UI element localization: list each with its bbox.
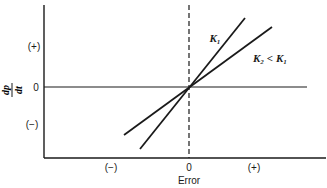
x-tick-positive: (+) <box>248 162 261 173</box>
y-tick-negative: (−) <box>26 119 39 130</box>
y-axis-label: dp dt <box>1 83 24 97</box>
y-tick-positive: (+) <box>28 41 41 52</box>
x-axis-label: Error <box>178 175 200 186</box>
y-axis-label-denominator: dt <box>14 86 24 94</box>
y-axis-label-numerator: dp <box>1 85 11 95</box>
y-tick-zero: 0 <box>33 82 39 93</box>
x-tick-zero: 0 <box>186 162 192 173</box>
x-tick-negative: (−) <box>105 162 118 173</box>
k2-label: K₂ < K₁ <box>253 52 287 64</box>
k2-line <box>124 27 272 135</box>
k1-line <box>140 18 245 149</box>
k1-label: K₁ <box>209 32 220 44</box>
chart-plot-area <box>0 0 327 188</box>
